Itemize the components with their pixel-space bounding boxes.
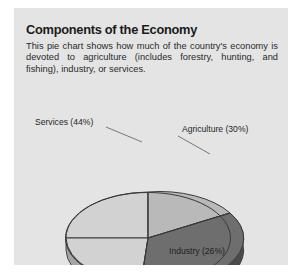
pie-chart: Services (44%) Agriculture (30%) Industr… [14, 86, 288, 265]
pie-chart-svg [14, 86, 288, 265]
pie-label-services: Services (44%) [35, 117, 93, 127]
chart-description: This pie chart shows how much of the cou… [26, 41, 278, 75]
pie-label-agriculture: Agriculture (30%) [182, 124, 248, 134]
page-title: Components of the Economy [26, 22, 197, 37]
leader-line-services [106, 127, 142, 142]
leader-line-agriculture [178, 136, 210, 154]
chart-panel: Components of the Economy This pie chart… [14, 8, 288, 265]
pie-slice-services-lower [66, 238, 148, 265]
pie-label-industry: Industry (26%) [169, 246, 225, 256]
